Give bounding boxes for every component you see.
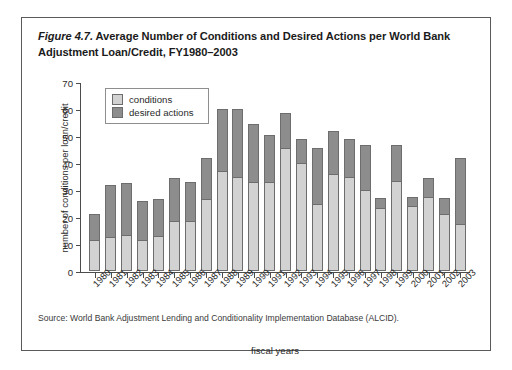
bar-group (185, 182, 196, 271)
bar-segment-conditions (407, 206, 418, 271)
chart-legend: conditions desired actions (105, 88, 209, 124)
bar-group (169, 178, 180, 271)
y-tick-label: 40 (62, 159, 73, 170)
bar-segment-desired-actions (201, 158, 212, 200)
bar-segment-desired-actions (169, 178, 180, 221)
bar-segment-desired-actions (153, 199, 164, 235)
bar-segment-desired-actions (89, 214, 100, 240)
y-tick-label: 30 (62, 186, 73, 197)
legend-label-desired-actions: desired actions (129, 107, 194, 118)
bar-segment-desired-actions (232, 109, 243, 177)
bar-segment-desired-actions (121, 183, 132, 234)
bar-group (217, 109, 228, 271)
legend-item-desired-actions: desired actions (112, 106, 194, 119)
bar-group (344, 139, 355, 271)
legend-swatch-icon (112, 94, 123, 105)
bar-segment-conditions (375, 208, 386, 271)
bar-group (137, 201, 148, 271)
legend-label-conditions: conditions (129, 94, 172, 105)
bar-segment-desired-actions (217, 109, 228, 171)
bar-group (375, 198, 386, 271)
bar-segment-desired-actions (248, 124, 259, 182)
bar-segment-conditions (296, 163, 307, 271)
bar-group (121, 183, 132, 271)
figure-frame: Figure 4.7. Average Number of Conditions… (21, 17, 491, 351)
bar-group (201, 158, 212, 271)
y-tick-mark (76, 137, 81, 138)
bar-group (89, 214, 100, 271)
figure-title: Figure 4.7. Average Number of Conditions… (38, 29, 470, 60)
bar-segment-desired-actions (344, 139, 355, 177)
y-tick-mark (76, 245, 81, 246)
figure-title-text: Average Number of Conditions and Desired… (38, 30, 450, 58)
bar-group (232, 109, 243, 271)
y-tick-mark (76, 164, 81, 165)
bar-group (423, 178, 434, 271)
bar-group (296, 139, 307, 271)
bar-segment-conditions (89, 240, 100, 271)
bar-segment-conditions (105, 237, 116, 271)
bar-segment-conditions (328, 174, 339, 271)
x-axis-title: fiscal years (80, 345, 470, 356)
bar-segment-desired-actions (296, 139, 307, 163)
bar-segment-desired-actions (105, 185, 116, 238)
y-tick-mark (76, 272, 81, 273)
bar-group (328, 131, 339, 271)
y-tick-label: 60 (62, 105, 73, 116)
bar-segment-desired-actions (439, 198, 450, 214)
bar-segment-conditions (248, 182, 259, 271)
bar-segment-desired-actions (280, 113, 291, 148)
bar-group (391, 145, 402, 271)
bar-segment-conditions (232, 177, 243, 272)
y-tick-label: 20 (62, 213, 73, 224)
y-tick-label: 50 (62, 132, 73, 143)
bar-segment-desired-actions (360, 145, 371, 190)
bar-segment-desired-actions (375, 198, 386, 207)
bar-group (280, 113, 291, 271)
bar-group (407, 197, 418, 271)
bar-segment-conditions (455, 224, 466, 271)
bar-segment-conditions (137, 240, 148, 271)
bar-segment-conditions (280, 148, 291, 271)
y-tick-mark (76, 83, 81, 84)
bar-segment-desired-actions (264, 135, 275, 182)
source-note: Source: World Bank Adjustment Lending an… (38, 313, 399, 323)
bar-segment-conditions (439, 214, 450, 271)
bar-group (248, 124, 259, 271)
bar-group (105, 185, 116, 271)
bar-segment-desired-actions (391, 145, 402, 180)
bar-group (312, 148, 323, 271)
bar-segment-conditions (217, 171, 228, 271)
bar-segment-desired-actions (312, 148, 323, 203)
y-tick-mark (76, 218, 81, 219)
bar-segment-conditions (201, 199, 212, 271)
figure-number: Figure 4.7. (38, 30, 93, 42)
bar-group (264, 135, 275, 271)
y-tick-label: 10 (62, 240, 73, 251)
bar-group (153, 199, 164, 271)
bar-segment-conditions (344, 177, 355, 272)
bar-segment-desired-actions (185, 182, 196, 221)
bar-group (455, 158, 466, 271)
legend-swatch-icon (112, 107, 123, 118)
bar-group (439, 198, 450, 271)
bar-segment-desired-actions (137, 201, 148, 240)
legend-item-conditions: conditions (112, 93, 194, 106)
bar-segment-conditions (153, 236, 164, 271)
bar-segment-conditions (391, 181, 402, 271)
chart-plot-area: number of conditions per loan/credit 010… (80, 83, 470, 272)
bar-segment-conditions (264, 182, 275, 271)
bar-segment-desired-actions (407, 197, 418, 206)
y-tick-mark (76, 191, 81, 192)
bar-group (360, 145, 371, 271)
bar-segment-conditions (121, 235, 132, 271)
y-tick-label: 70 (62, 78, 73, 89)
bar-segment-desired-actions (455, 158, 466, 224)
y-axis-title: number of conditions per loan/credit (59, 103, 70, 252)
bar-segment-conditions (360, 190, 371, 271)
bar-segment-conditions (312, 204, 323, 272)
y-tick-label: 0 (68, 267, 73, 278)
bar-segment-conditions (169, 221, 180, 271)
bar-segment-desired-actions (328, 131, 339, 174)
y-tick-mark (76, 110, 81, 111)
